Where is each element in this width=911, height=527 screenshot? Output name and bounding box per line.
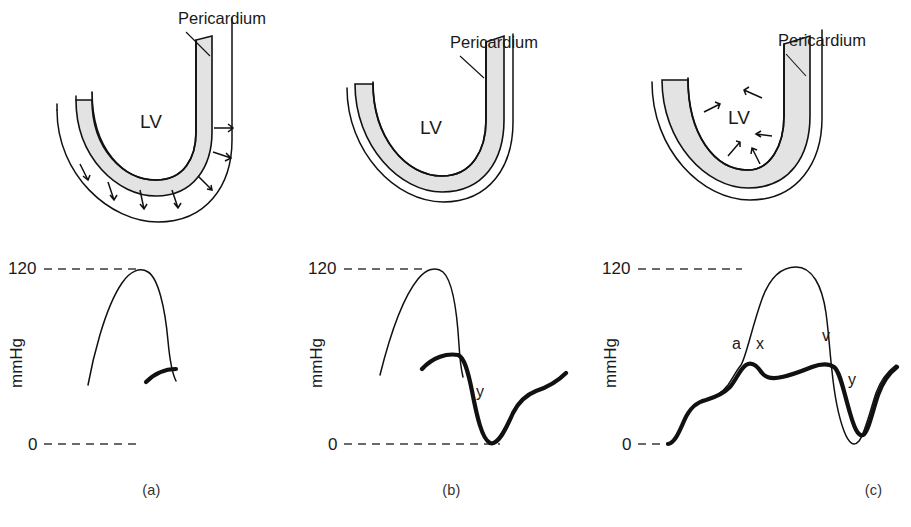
axis-zero-label-b: 0 <box>328 435 337 454</box>
axis-top-label-a: 120 <box>8 259 36 278</box>
wave-label-v-c: v <box>822 327 830 344</box>
axis-top-label-c: 120 <box>602 259 630 278</box>
atrial-pressure-curve-c <box>668 364 897 444</box>
axis-zero-label-a: 0 <box>28 435 37 454</box>
pericardium-label-b: Pericardium <box>450 33 538 51</box>
panel-a: Pericardium LV 120 0 mmHg <box>0 0 303 527</box>
wave-label-a-c: a <box>732 335 741 352</box>
inner-contour-a <box>57 96 76 110</box>
axis-top-label-b: 120 <box>308 259 336 278</box>
anatomy-diagram-c: Pericardium LV <box>600 0 903 250</box>
pressure-trace-b: 120 0 mmHg y <box>300 245 603 480</box>
wave-label-x-c: x <box>756 335 764 352</box>
panel-b: Pericardium LV 120 0 mmHg y (b) <box>300 0 603 527</box>
pressure-trace-a: 120 0 mmHg <box>0 245 303 480</box>
axis-zero-label-c: 0 <box>622 435 631 454</box>
wave-label-y-c: y <box>848 371 856 388</box>
panel-caption-b: (b) <box>300 482 621 498</box>
lv-pressure-curve-a <box>88 270 176 385</box>
pressure-trace-c: 120 0 mmHg a x v y <box>600 245 903 480</box>
lv-pressure-curve-c <box>668 267 896 444</box>
pericardium-leader-b <box>460 56 484 78</box>
atrial-pressure-curve-a <box>146 369 176 382</box>
lv-pressure-curve-b <box>380 269 463 377</box>
pericardium-label-a: Pericardium <box>178 9 266 27</box>
pericardium-label-c: Pericardium <box>778 31 866 49</box>
anatomy-diagram-a: Pericardium LV <box>0 0 303 250</box>
axis-unit-label-c: mmHg <box>601 338 620 388</box>
panel-c: Pericardium LV 120 0 mmHg a x v y <box>600 0 903 527</box>
wave-label-y-b: y <box>476 383 484 400</box>
anatomy-diagram-b: Pericardium LV <box>300 0 603 250</box>
cardiac-pressure-figure: Pericardium LV 120 0 mmHg <box>0 0 911 527</box>
lv-label-b: LV <box>420 117 442 138</box>
axis-unit-label-a: mmHg <box>7 338 26 388</box>
lv-label-a: LV <box>140 111 162 132</box>
atrial-pressure-curve-b <box>422 355 566 444</box>
panel-caption-c: (c) <box>600 482 911 498</box>
lv-label-c: LV <box>728 107 750 128</box>
axis-unit-label-b: mmHg <box>307 338 326 388</box>
